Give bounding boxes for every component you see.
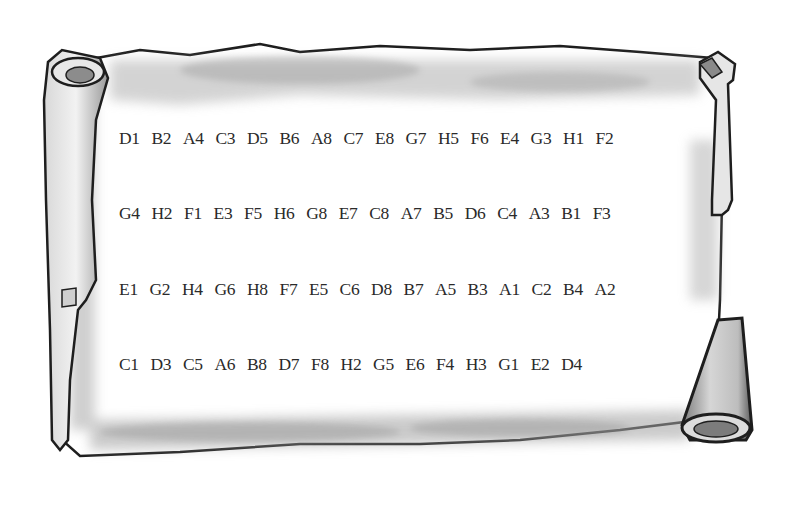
- cipher-row-1: D1B2A4C3D5B6A8C7E8G7H5F6E4G3H1F2: [119, 128, 625, 158]
- token: A3: [529, 203, 550, 224]
- token: G3: [531, 128, 552, 149]
- token: D8: [371, 279, 392, 300]
- scroll-illustration: [0, 0, 786, 505]
- token: G5: [373, 354, 394, 375]
- token: E4: [500, 128, 519, 149]
- token: B2: [151, 128, 171, 149]
- token: F2: [596, 128, 614, 149]
- token: C7: [343, 128, 363, 149]
- token: F5: [244, 203, 262, 224]
- token: C8: [369, 203, 389, 224]
- token: F7: [279, 279, 297, 300]
- token: A6: [215, 354, 236, 375]
- token: H2: [341, 354, 362, 375]
- token: H3: [466, 354, 487, 375]
- token: A8: [311, 128, 332, 149]
- token: F1: [184, 203, 202, 224]
- token: B7: [404, 279, 424, 300]
- token: C2: [532, 279, 552, 300]
- token: B5: [433, 203, 453, 224]
- token: A5: [435, 279, 456, 300]
- token: G6: [215, 279, 236, 300]
- token: E3: [214, 203, 233, 224]
- token: B4: [563, 279, 583, 300]
- token: E2: [531, 354, 550, 375]
- token: B1: [561, 203, 581, 224]
- token: B6: [279, 128, 299, 149]
- token: H6: [274, 203, 295, 224]
- token: F3: [593, 203, 611, 224]
- token: C6: [340, 279, 360, 300]
- token: G4: [119, 203, 140, 224]
- token: C1: [119, 354, 139, 375]
- token: A1: [499, 279, 520, 300]
- token: F4: [436, 354, 454, 375]
- token: H1: [563, 128, 584, 149]
- cipher-row-4: C1D3C5A6B8D7F8H2G5E6F4H3G1E2D4: [119, 354, 594, 384]
- cipher-row-2: G4H2F1E3F5H6G8E7C8A7B5D6C4A3B1F3: [119, 203, 622, 233]
- token: G2: [150, 279, 171, 300]
- token: C3: [215, 128, 235, 149]
- token: E6: [406, 354, 425, 375]
- token: A2: [595, 279, 616, 300]
- token: F6: [471, 128, 489, 149]
- token: D4: [561, 354, 582, 375]
- parchment-scroll: D1B2A4C3D5B6A8C7E8G7H5F6E4G3H1F2 G4H2F1E…: [0, 0, 786, 505]
- token: B3: [468, 279, 488, 300]
- token: H2: [151, 203, 172, 224]
- token: C4: [497, 203, 517, 224]
- token: H5: [438, 128, 459, 149]
- token: E7: [339, 203, 358, 224]
- token: E5: [309, 279, 328, 300]
- token: B8: [247, 354, 267, 375]
- token: D5: [247, 128, 268, 149]
- token: H8: [247, 279, 268, 300]
- token: A7: [401, 203, 422, 224]
- parchment-body: [55, 44, 722, 456]
- token: D6: [465, 203, 486, 224]
- token: G7: [406, 128, 427, 149]
- token: F8: [311, 354, 329, 375]
- cipher-row-3: E1G2H4G6H8F7E5C6D8B7A5B3A1C2B4A2: [119, 279, 627, 309]
- token: C5: [183, 354, 203, 375]
- token: G1: [498, 354, 519, 375]
- token: D1: [119, 128, 140, 149]
- token: D3: [151, 354, 172, 375]
- token: E8: [375, 128, 394, 149]
- token: E1: [119, 279, 138, 300]
- token: D7: [279, 354, 300, 375]
- token: G8: [306, 203, 327, 224]
- token: A4: [183, 128, 204, 149]
- token: H4: [182, 279, 203, 300]
